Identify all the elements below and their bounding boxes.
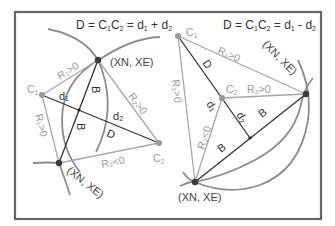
label-r2-mid: R₂>0 — [247, 83, 271, 95]
diagram-canvas: D = C1C2 = d1 + d2 C1 C2 (XN, XE) (XN, X… — [0, 0, 335, 226]
label-lower-intersection: (XN, XE) — [178, 191, 221, 203]
point-lower-intersection — [192, 179, 198, 185]
foot-point — [77, 108, 80, 111]
point-c1 — [39, 92, 45, 98]
point-c2 — [156, 140, 162, 146]
label-upper-intersection: (XN, XE) — [110, 56, 153, 68]
label-d2: d₂ — [113, 110, 123, 122]
left-title: D = C1C2 = d1 + d2 — [76, 18, 172, 32]
point-c2 — [219, 95, 225, 101]
label-B-upper: B — [90, 86, 102, 93]
label-B-lower: B — [75, 123, 87, 130]
point-lower-intersection — [56, 160, 62, 166]
point-right-intersection — [303, 91, 309, 97]
point-upper-intersection — [95, 57, 101, 63]
point-c1 — [175, 33, 181, 39]
label-r1-left: R₁>0 — [170, 79, 184, 103]
label-d1: d₁ — [59, 90, 69, 102]
foot-point — [248, 136, 251, 139]
right-title: D = C1C2 = d1 - d2 — [223, 18, 316, 32]
